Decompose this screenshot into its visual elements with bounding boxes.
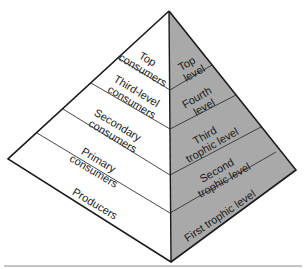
trophic-pyramid-diagram: Top consumers Third-level consumers Seco… — [0, 0, 305, 269]
